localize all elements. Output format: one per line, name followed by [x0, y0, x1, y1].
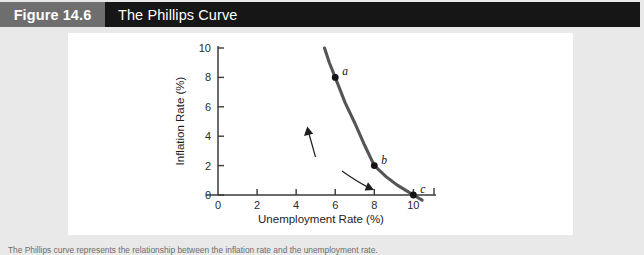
x-tick-label: 8 — [371, 199, 377, 211]
figure-number-label: Figure 14.6 — [14, 7, 92, 23]
x-axis-title: Unemployment Rate (%) — [258, 213, 384, 225]
figure-title-container: The Phillips Curve — [105, 2, 640, 27]
annotation-arrow-down — [342, 171, 374, 191]
data-point-label-a: a — [342, 65, 348, 77]
figure-header-bar: Figure 14.6 The Phillips Curve — [0, 2, 640, 27]
x-tick-label: 4 — [293, 199, 299, 211]
data-point-a — [332, 74, 339, 81]
arrow-down-shaft — [342, 171, 369, 188]
data-point-label-c: c — [420, 183, 425, 195]
chart-panel: 0246810 0246810 abc Unemployment Rate (%… — [68, 33, 573, 235]
data-point-c — [410, 192, 417, 199]
arrow-up-head — [304, 127, 313, 136]
y-tick-label: 4 — [205, 130, 211, 142]
y-axis-ticks: 0246810 — [199, 42, 224, 201]
x-tick-label: 10 — [407, 199, 419, 211]
figure-number-box: Figure 14.6 — [0, 2, 105, 27]
y-tick-label: 2 — [205, 160, 211, 172]
x-tick-label: 2 — [254, 199, 260, 211]
x-tick-label: 0 — [215, 199, 221, 211]
chart-data-points: abc — [332, 65, 426, 198]
y-tick-label: 8 — [205, 71, 211, 83]
phillips-curve-line — [324, 48, 422, 200]
figure-title-label: The Phillips Curve — [118, 7, 237, 23]
data-point-label-b: b — [381, 154, 387, 166]
chart-svg: 0246810 0246810 abc Unemployment Rate (%… — [68, 33, 573, 235]
y-tick-label: 0 — [205, 189, 211, 201]
figure-caption: The Phillips curve represents the relati… — [8, 245, 636, 255]
chart-axes — [206, 46, 436, 195]
x-axis-ticks: 0246810 — [215, 188, 434, 211]
y-tick-label: 6 — [205, 101, 211, 113]
x-tick-label: 6 — [332, 199, 338, 211]
y-tick-label: 10 — [199, 42, 211, 54]
data-point-b — [371, 162, 378, 169]
annotation-arrow-up — [304, 127, 316, 158]
phillips-curve-chart: 0246810 0246810 abc Unemployment Rate (%… — [68, 33, 573, 235]
arrow-up-shaft — [309, 132, 316, 157]
y-axis-title: Inflation Rate (%) — [174, 76, 186, 165]
